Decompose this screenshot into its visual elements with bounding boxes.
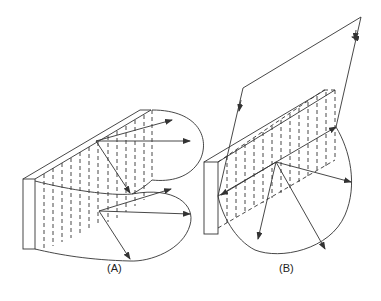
panel-a-slab-front [23,179,35,249]
panel-b-slab-front [204,162,218,234]
panel-a-label: (A) [107,262,122,274]
panel-b-label: (B) [279,262,294,274]
panel-b-diagram [204,17,361,254]
panel-a-diagram [23,110,204,261]
diagram-canvas [0,0,381,301]
panel-a-dashed-lines [44,110,152,248]
panel-b-dashed-lines [218,90,335,228]
